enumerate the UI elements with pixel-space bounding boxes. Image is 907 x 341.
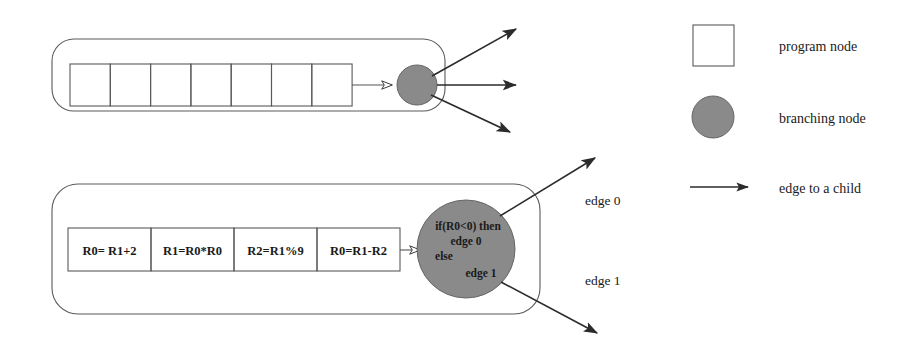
instruction-cell bbox=[231, 64, 271, 106]
instruction-text-2: R2=R1%9 bbox=[247, 244, 303, 258]
top-program-node-outline bbox=[52, 39, 445, 111]
edge-1-label: edge 1 bbox=[585, 273, 621, 288]
branch-condition-line-4: edge 1 bbox=[466, 267, 497, 280]
instruction-text-1: R1=R0*R0 bbox=[163, 244, 222, 258]
instruction-cell bbox=[110, 64, 150, 106]
branch-condition-line-2: edge 0 bbox=[451, 235, 482, 248]
top-edge-to-child-lower bbox=[431, 95, 510, 132]
edge-0-label: edge 0 bbox=[585, 193, 621, 208]
top-instruction-strip bbox=[70, 64, 352, 106]
instruction-text-3: R0=R1-R2 bbox=[330, 244, 387, 258]
diagram-canvas: R0= R1+2 R1=R0*R0 R2=R1%9 R0=R1-R2 if(R0… bbox=[0, 0, 907, 341]
legend: program node branching node edge to a ch… bbox=[690, 25, 866, 196]
filled-circle-icon bbox=[692, 96, 734, 138]
top-program-node-group bbox=[52, 29, 516, 132]
bottom-branching-node bbox=[417, 200, 515, 298]
instruction-cell bbox=[70, 64, 110, 106]
instruction-text-0: R0= R1+2 bbox=[82, 244, 136, 258]
bottom-edge-1-arrow bbox=[501, 282, 597, 333]
instruction-cell bbox=[272, 64, 312, 106]
square-outline-icon bbox=[693, 25, 734, 66]
legend-label-edge-to-child: edge to a child bbox=[779, 181, 861, 196]
bottom-instruction-strip: R0= R1+2 R1=R0*R0 R2=R1%9 R0=R1-R2 bbox=[68, 228, 400, 271]
bottom-edge-0-arrow bbox=[500, 158, 595, 216]
top-edge-to-child-upper bbox=[432, 29, 516, 76]
legend-label-program-node: program node bbox=[779, 39, 857, 54]
legend-label-branching-node: branching node bbox=[779, 111, 866, 126]
bottom-program-node-group: R0= R1+2 R1=R0*R0 R2=R1%9 R0=R1-R2 if(R0… bbox=[52, 158, 621, 333]
diagram-svg: R0= R1+2 R1=R0*R0 R2=R1%9 R0=R1-R2 if(R0… bbox=[0, 0, 907, 341]
instruction-cell bbox=[191, 64, 231, 106]
instruction-cell bbox=[151, 64, 191, 106]
branch-condition-line-1: if(R0<0) then bbox=[435, 220, 501, 233]
branch-condition-line-3: else bbox=[435, 250, 453, 262]
instruction-cell bbox=[312, 64, 352, 106]
top-branching-node bbox=[397, 65, 437, 105]
